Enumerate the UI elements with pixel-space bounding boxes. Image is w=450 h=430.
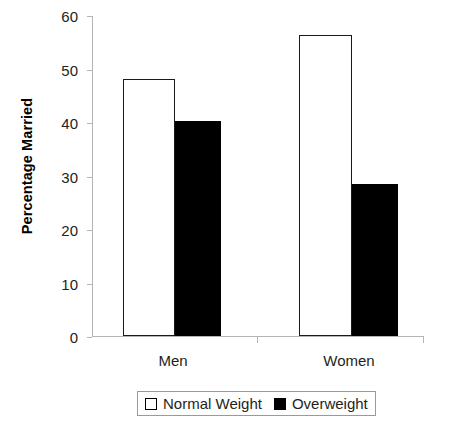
y-tick-mark: 50 <box>87 70 92 71</box>
y-tick-label: 60 <box>61 8 78 25</box>
y-tick-label: 20 <box>61 222 78 239</box>
y-tick-mark: 60 <box>87 16 92 17</box>
chart-legend: Normal Weight Overweight <box>137 391 376 416</box>
y-tick-mark: 10 <box>87 284 92 285</box>
legend-entry-normal-weight: Normal Weight <box>145 395 262 412</box>
legend-label-normal-weight: Normal Weight <box>163 395 262 412</box>
bar-men-overweight <box>175 121 221 336</box>
bar-women-normal-weight <box>299 35 352 336</box>
y-tick-mark: 20 <box>87 230 92 231</box>
y-tick-label: 10 <box>61 275 78 292</box>
y-tick-label: 30 <box>61 168 78 185</box>
y-tick-label: 40 <box>61 115 78 132</box>
x-axis-line <box>92 336 424 337</box>
y-axis-title: Percentage Married <box>19 76 35 256</box>
bar-chart-figure: Percentage Married 60 50 40 30 20 10 0 <box>0 0 450 430</box>
x-axis-category-label-men: Men <box>158 352 187 369</box>
y-tick-mark: 30 <box>87 177 92 178</box>
x-axis-category-label-women: Women <box>323 352 374 369</box>
y-axis-line <box>92 16 93 337</box>
x-tick-mark <box>423 337 424 343</box>
plot-area: 60 50 40 30 20 10 0 <box>92 16 424 337</box>
y-tick-mark: 40 <box>87 123 92 124</box>
x-tick-mark <box>257 337 258 343</box>
y-tick-label: 0 <box>70 329 78 346</box>
bar-men-normal-weight <box>123 79 175 336</box>
open-square-swatch-icon <box>145 398 157 410</box>
filled-square-swatch-icon <box>274 398 286 410</box>
legend-label-overweight: Overweight <box>292 395 368 412</box>
bar-women-overweight <box>352 184 398 336</box>
y-tick-mark: 0 <box>87 337 92 338</box>
legend-entry-overweight: Overweight <box>274 395 368 412</box>
y-tick-label: 50 <box>61 61 78 78</box>
